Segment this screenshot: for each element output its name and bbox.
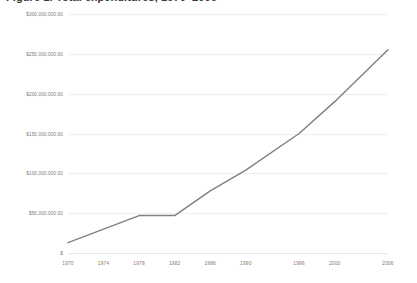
x-axis-tick-label: 1978 [133,261,144,266]
y-axis-tick-label: $250,000,000.00 [26,51,63,56]
x-axis-tick-label: 1970 [62,261,73,266]
y-axis-tick-label: $300,000,000.00 [26,12,63,17]
x-axis-tick-label: 1974 [98,261,109,266]
y-axis-tick-label: $100,000,000.00 [26,171,63,176]
y-axis-tick-label: $200,000,000.00 [26,91,63,96]
gridline [68,253,388,254]
series-polyline [68,50,388,243]
series-line-total-expenditures [68,14,388,253]
y-axis-tick-label: $50,000,000.00 [29,211,63,216]
y-axis-tick-label: $150,000,000.00 [26,131,63,136]
x-axis-tick-label: 1986 [204,261,215,266]
y-axis-tick-label: $ [60,251,63,256]
chart-title: Figure 1. Total expenditures, 1970–2006 [6,0,217,3]
line-chart: Figure 1. Total expenditures, 1970–2006 … [0,0,417,283]
x-axis-tick-label: 1996 [293,261,304,266]
x-axis-tick-label: 2000 [329,261,340,266]
plot-area: $300,000,000.00$250,000,000.00$200,000,0… [68,14,388,253]
x-axis-tick-label: 1982 [169,261,180,266]
x-axis-tick-label: 1990 [240,261,251,266]
x-axis-tick-label: 2006 [382,261,393,266]
